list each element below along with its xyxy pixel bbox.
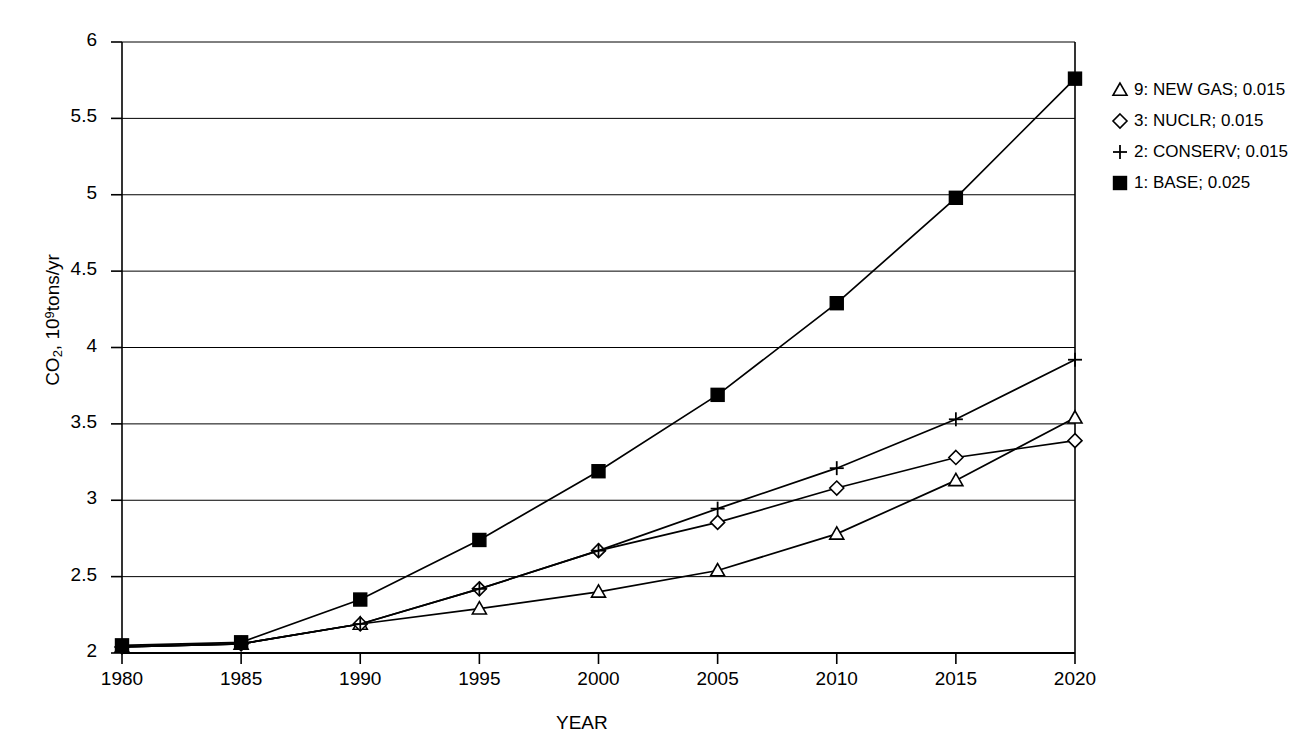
y-axis-tick-label: 4	[37, 335, 97, 357]
legend-item[interactable]: 3: NUCLR; 0.015	[1108, 105, 1308, 136]
y-axis-tick-label: 3.5	[37, 411, 97, 433]
data-series	[116, 72, 1082, 652]
diamond-marker-icon	[1108, 111, 1134, 131]
y-axis-label: CO2, 109tons/yr	[42, 220, 82, 420]
data-series-layer	[115, 72, 1082, 654]
plus-marker-icon	[1108, 142, 1134, 162]
x-axis-tick-label: 2020	[1035, 668, 1115, 690]
x-axis-tick-label: 2005	[678, 668, 758, 690]
y-axis-tick-label: 5.5	[37, 105, 97, 127]
x-axis-tick-label: 2015	[916, 668, 996, 690]
x-axis-tick-label: 2010	[797, 668, 877, 690]
x-axis-tick-label: 2000	[559, 668, 639, 690]
legend-item[interactable]: 1: BASE; 0.025	[1108, 167, 1308, 198]
y-axis-tick-label: 2	[37, 640, 97, 662]
y-axis-tick-label: 3	[37, 487, 97, 509]
triangle-marker-icon	[1108, 80, 1134, 100]
square-marker-icon	[1108, 173, 1134, 193]
y-axis-tick-label: 2.5	[37, 564, 97, 586]
axis-lines	[111, 42, 1075, 664]
x-axis-tick-label: 1995	[439, 668, 519, 690]
x-axis-tick-label: 1990	[320, 668, 400, 690]
x-axis-tick-label: 1980	[82, 668, 162, 690]
gridlines	[122, 42, 1075, 577]
legend-item-label: 3: NUCLR; 0.015	[1134, 111, 1263, 131]
y-axis-tick-label: 4.5	[37, 258, 97, 280]
data-series	[115, 353, 1082, 654]
legend-item[interactable]: 9: NEW GAS; 0.015	[1108, 74, 1308, 105]
y-axis-tick-label: 6	[37, 29, 97, 51]
co2-emissions-line-chart: CO2, 109tons/yr YEAR 22.533.544.555.56 1…	[0, 0, 1308, 754]
legend-item-label: 9: NEW GAS; 0.015	[1134, 80, 1285, 100]
data-series	[115, 411, 1082, 652]
x-axis-label: YEAR	[556, 712, 608, 734]
legend-item[interactable]: 2: CONSERV; 0.015	[1108, 136, 1308, 167]
legend-item-label: 2: CONSERV; 0.015	[1134, 142, 1288, 162]
legend: 9: NEW GAS; 0.0153: NUCLR; 0.0152: CONSE…	[1108, 74, 1308, 198]
legend-item-label: 1: BASE; 0.025	[1134, 173, 1250, 193]
y-axis-tick-label: 5	[37, 182, 97, 204]
x-axis-tick-label: 1985	[201, 668, 281, 690]
